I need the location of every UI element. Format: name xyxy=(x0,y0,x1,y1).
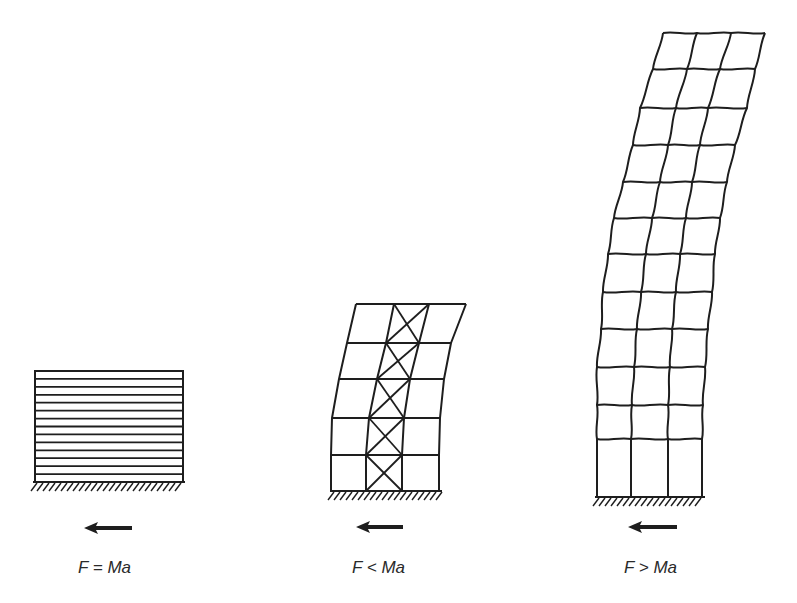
ground-hatch xyxy=(695,498,701,506)
ground-hatch xyxy=(394,492,400,500)
frame-column xyxy=(702,33,765,497)
ground-hatch xyxy=(376,492,382,500)
ground-hatch xyxy=(133,483,139,491)
ground-hatch xyxy=(388,492,394,500)
ground-hatch xyxy=(400,492,406,500)
ground-hatch xyxy=(145,483,151,491)
ground-hatch xyxy=(163,483,169,491)
rigid-block-structure xyxy=(35,371,183,482)
ground-hatch xyxy=(73,483,79,491)
frame-floor-beam xyxy=(663,32,765,33)
ground-hatch xyxy=(412,492,418,500)
frame-floor-beam xyxy=(601,328,708,329)
ground-hatch xyxy=(352,492,358,500)
frame-floor-beam xyxy=(633,144,735,145)
ground-hatch xyxy=(43,483,49,491)
ground-hatch xyxy=(611,498,617,506)
ground-hatch xyxy=(157,483,163,491)
ground-hatch xyxy=(169,483,175,491)
braced-frame-structure xyxy=(331,304,466,491)
ground-hatch xyxy=(328,492,334,500)
ground-hatch xyxy=(103,483,109,491)
label-flexible-frame: F > Ma xyxy=(624,558,677,578)
ground-hatch xyxy=(49,483,55,491)
frame-floor-beam xyxy=(597,438,702,439)
cross-brace xyxy=(394,304,419,343)
label-rigid-block: F = Ma xyxy=(78,558,131,578)
frame-column xyxy=(439,304,466,491)
ground-hatching xyxy=(31,482,705,506)
ground-hatch xyxy=(334,492,340,500)
ground-hatch xyxy=(115,483,121,491)
ground-hatch xyxy=(31,483,37,491)
ground-hatch xyxy=(665,498,671,506)
frame-floor-beam xyxy=(597,366,705,367)
frame-floor-beam xyxy=(623,181,727,182)
flexible-frame-structure xyxy=(596,32,765,497)
frame-column xyxy=(631,33,697,497)
frame-column xyxy=(331,304,356,491)
ground-hatch xyxy=(617,498,623,506)
ground-hatch xyxy=(67,483,73,491)
ground-hatch xyxy=(109,483,115,491)
force-arrows xyxy=(84,521,677,534)
frame-column xyxy=(402,304,429,491)
ground-hatch xyxy=(151,483,157,491)
ground-hatch xyxy=(61,483,67,491)
ground-hatch xyxy=(127,483,133,491)
ground-hatch xyxy=(659,498,665,506)
ground-hatch xyxy=(364,492,370,500)
ground-hatch xyxy=(629,498,635,506)
ground-hatch xyxy=(599,498,605,506)
cross-brace xyxy=(377,379,404,418)
frame-floor-beam xyxy=(597,404,703,405)
frame-floor-beam xyxy=(603,291,712,292)
label-braced-frame: F < Ma xyxy=(352,558,405,578)
ground-hatch xyxy=(121,483,127,491)
ground-hatch xyxy=(593,498,599,506)
frame-floor-beam xyxy=(640,107,747,108)
ground-hatch xyxy=(346,492,352,500)
cross-brace xyxy=(386,343,410,379)
ground-hatch xyxy=(689,498,695,506)
ground-hatch xyxy=(653,498,659,506)
ground-hatch xyxy=(340,492,346,500)
frame-floor-beam xyxy=(653,68,755,69)
ground-hatch xyxy=(37,483,43,491)
ground-hatch xyxy=(406,492,412,500)
ground-hatch xyxy=(358,492,364,500)
ground-hatch xyxy=(175,483,181,491)
ground-hatch xyxy=(97,483,103,491)
ground-hatch xyxy=(623,498,629,506)
ground-hatch xyxy=(605,498,611,506)
frame-floor-beam xyxy=(608,253,715,254)
ground-hatch xyxy=(139,483,145,491)
ground-hatch xyxy=(436,492,442,500)
ground-hatch xyxy=(382,492,388,500)
frame-column xyxy=(596,33,663,497)
ground-hatch xyxy=(55,483,61,491)
ground-hatch xyxy=(424,492,430,500)
ground-hatch xyxy=(671,498,677,506)
ground-hatch xyxy=(635,498,641,506)
ground-hatch xyxy=(647,498,653,506)
ground-hatch xyxy=(641,498,647,506)
ground-hatch xyxy=(85,483,91,491)
ground-hatch xyxy=(370,492,376,500)
ground-hatch xyxy=(430,492,436,500)
ground-hatch xyxy=(677,498,683,506)
ground-hatch xyxy=(418,492,424,500)
ground-hatch xyxy=(683,498,689,506)
ground-hatch xyxy=(79,483,85,491)
ground-hatch xyxy=(91,483,97,491)
structural-response-diagram xyxy=(0,0,797,603)
frame-floor-beam xyxy=(614,217,720,218)
